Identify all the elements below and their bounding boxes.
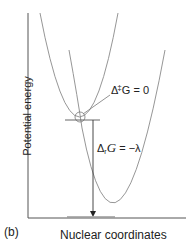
y-axis-label: Potential energy: [21, 71, 33, 161]
x-axis-label: Nuclear coordinates: [60, 228, 167, 242]
reactant-parabola-wide: [40, 13, 118, 117]
reaction-eq: = −λ: [116, 142, 140, 154]
reaction-energy-label: ΔrG = −λ: [97, 140, 141, 156]
arrow-head: [90, 211, 96, 217]
panel-label: (b): [4, 225, 19, 239]
activation-energy-label: Δ‡G = 0: [111, 83, 149, 96]
product-parabola: [82, 50, 165, 203]
activation-eq: G = 0: [122, 84, 149, 96]
gibbs-g: G: [107, 140, 116, 155]
